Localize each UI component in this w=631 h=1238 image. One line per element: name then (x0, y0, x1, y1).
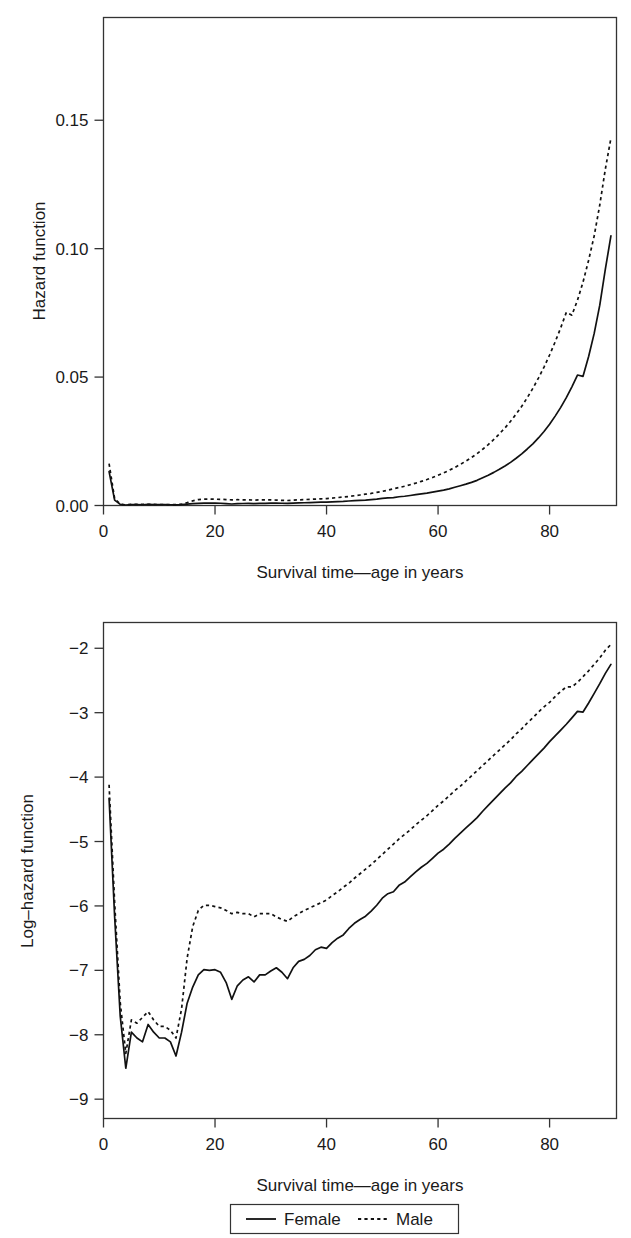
x-tick-label: 0 (99, 522, 108, 541)
x-tick-label: 40 (317, 522, 336, 541)
y-tick-label: 0.00 (55, 497, 88, 516)
log-hazard-y-axis-label: Log–hazard function (18, 794, 37, 948)
x-tick-label: 80 (540, 1135, 559, 1154)
x-tick-label: 80 (540, 522, 559, 541)
y-tick-label: 0.10 (55, 240, 88, 259)
legend-label-male: Male (396, 1210, 433, 1229)
hazard-plot-frame (104, 18, 617, 506)
legend-label-female: Female (284, 1210, 341, 1229)
y-tick-label: −4 (69, 768, 88, 787)
x-tick-label: 0 (99, 1135, 108, 1154)
hazard-y-tick-group: 0.000.050.100.15 (55, 111, 103, 515)
y-tick-label: −9 (69, 1090, 88, 1109)
x-tick-label: 20 (206, 1135, 225, 1154)
log-hazard-x-tick-group: 020406080 (99, 1119, 559, 1154)
hazard-y-axis-label: Hazard function (30, 201, 49, 320)
log-hazard-series-female (109, 664, 611, 1068)
x-tick-label: 60 (429, 522, 448, 541)
hazard-chart-svg: 0.000.050.100.15 020406080 Hazard functi… (0, 0, 631, 600)
y-tick-label: −2 (69, 639, 88, 658)
panel-hazard-function: 0.000.050.100.15 020406080 Hazard functi… (0, 0, 631, 600)
y-tick-label: 0.05 (55, 368, 88, 387)
x-tick-label: 40 (317, 1135, 336, 1154)
y-tick-label: −6 (69, 897, 88, 916)
hazard-x-axis-label: Survival time—age in years (257, 563, 464, 582)
log-hazard-y-tick-group: −2−3−4−5−6−7−8−9 (69, 639, 103, 1109)
log-hazard-plot-frame (104, 623, 617, 1119)
hazard-series-female (109, 236, 611, 505)
y-tick-label: −5 (69, 833, 88, 852)
legend: Female Male (231, 1205, 459, 1234)
y-tick-label: −7 (69, 961, 88, 980)
log-hazard-x-axis-label: Survival time—age in years (257, 1176, 464, 1195)
x-tick-label: 60 (429, 1135, 448, 1154)
panel-log-hazard-function: −2−3−4−5−6−7−8−9 020406080 Log–hazard fu… (0, 600, 631, 1238)
hazard-series-male (109, 138, 611, 505)
x-tick-label: 20 (206, 522, 225, 541)
figure-page: 0.000.050.100.15 020406080 Hazard functi… (0, 0, 631, 1238)
y-tick-label: −8 (69, 1026, 88, 1045)
log-hazard-chart-svg: −2−3−4−5−6−7−8−9 020406080 Log–hazard fu… (0, 600, 631, 1238)
hazard-x-tick-group: 020406080 (99, 506, 559, 541)
log-hazard-series-male (109, 644, 611, 1053)
y-tick-label: 0.15 (55, 111, 88, 130)
y-tick-label: −3 (69, 704, 88, 723)
